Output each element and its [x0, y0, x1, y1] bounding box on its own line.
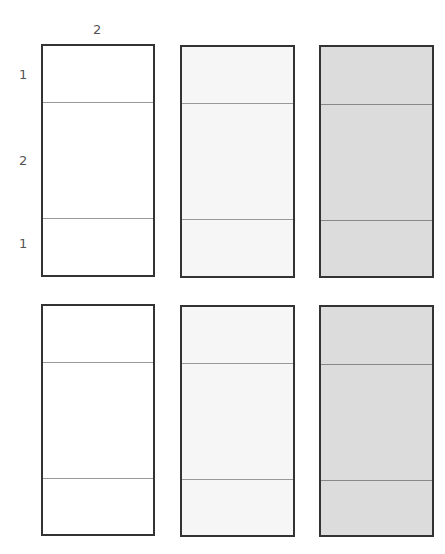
divider-lower: [182, 479, 293, 480]
divider-lower: [321, 220, 432, 221]
panel-row2-white: [41, 304, 155, 536]
divider-upper: [321, 364, 432, 365]
divider-upper: [182, 103, 293, 104]
divider-upper: [43, 102, 153, 103]
height-label-bottom: 1: [19, 237, 27, 250]
panel-row1-gray: [319, 45, 434, 278]
divider-upper: [182, 363, 293, 364]
divider-lower: [43, 218, 153, 219]
panel-row1-light: [180, 45, 295, 278]
divider-lower: [182, 219, 293, 220]
divider-upper: [321, 104, 432, 105]
height-label-top: 1: [19, 68, 27, 81]
panel-row2-light: [180, 305, 295, 537]
divider-lower: [43, 478, 153, 479]
panel-row2-gray: [319, 305, 434, 537]
panel-row1-white: [41, 44, 155, 277]
height-label-middle: 2: [19, 154, 27, 167]
divider-upper: [43, 362, 153, 363]
width-label: 2: [93, 23, 101, 36]
divider-lower: [321, 480, 432, 481]
